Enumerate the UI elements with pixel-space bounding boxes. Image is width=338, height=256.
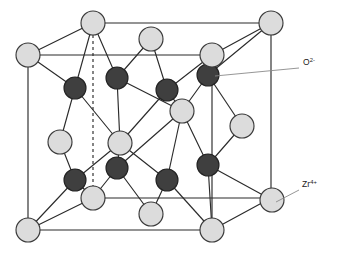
zr-face-front — [108, 131, 132, 155]
label-leader-lines — [215, 68, 299, 202]
zirconium-ion-label-base: Zr — [302, 179, 310, 189]
oxide-ion-label: O2- — [303, 57, 315, 67]
zr-corner-back-top-left — [81, 11, 105, 35]
o-tet-7 — [156, 169, 178, 191]
zr-face-back — [170, 99, 194, 123]
o-tet-5 — [64, 169, 86, 191]
zr-corner-front-top-right — [200, 43, 224, 67]
zr-corner-back-top-right — [259, 11, 283, 35]
ion-labels: O2-Zr4+ — [302, 57, 318, 189]
o-tet-1 — [64, 77, 86, 99]
zr-corner-front-bottom-left — [16, 218, 40, 242]
o-tet-3 — [156, 79, 178, 101]
crystal-structure-svg: O2-Zr4+ — [0, 0, 338, 256]
zr-corner-front-bottom-right — [200, 218, 224, 242]
zr-corner-back-bottom-left — [81, 186, 105, 210]
zr-corner-front-top-left — [16, 43, 40, 67]
crystal-structure-figure: O2-Zr4+ — [0, 0, 338, 256]
zr-face-top — [139, 27, 163, 51]
o-tet-6 — [106, 157, 128, 179]
zr-face-bottom — [139, 202, 163, 226]
oxide-ion-label-charge: 2- — [310, 57, 315, 63]
o-tet-8 — [197, 154, 219, 176]
zirconium-ion-label-charge: 4+ — [310, 179, 317, 185]
oxide-ion-label-leader — [215, 68, 299, 76]
o-tet-2 — [106, 67, 128, 89]
zr-face-right — [230, 114, 254, 138]
zr-face-left — [48, 130, 72, 154]
zirconium-ion-label: Zr4+ — [302, 179, 318, 189]
o-tet-4 — [197, 64, 219, 86]
